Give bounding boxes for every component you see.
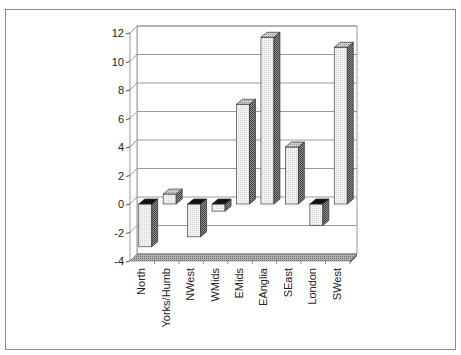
bar-seast [285, 142, 304, 204]
y-tick-label: 2 [118, 170, 124, 182]
x-axis: NorthYorks/HumbNWestWMidsEMidsEAngliaSEa… [135, 261, 350, 328]
x-category-label: North [135, 268, 147, 295]
x-category-label: London [306, 268, 318, 305]
y-tick-label: 4 [118, 141, 124, 153]
y-tick-label: 6 [118, 113, 124, 125]
bar-chart-3d: -4-2024681012 NorthYorks/HumbNWestWMidsE… [0, 0, 461, 355]
y-tick-label: 8 [118, 84, 124, 96]
bar-north [139, 199, 158, 247]
x-category-label: SWest [331, 268, 343, 300]
bar-emids [237, 99, 256, 204]
bar-eanglia [261, 32, 280, 204]
x-category-label: SEast [282, 268, 294, 297]
y-tick-label: 10 [112, 56, 124, 68]
y-axis: -4-2024681012 [112, 27, 130, 267]
y-tick-label: -2 [114, 227, 124, 239]
x-category-label: NWest [184, 268, 196, 301]
bar-nwest [188, 199, 207, 237]
x-category-label: Yorks/Humb [160, 268, 172, 328]
bar-swest [334, 42, 353, 204]
y-tick-label: 0 [118, 198, 124, 210]
y-tick-label: -4 [114, 255, 124, 267]
bar-yorks-humb [163, 189, 182, 204]
y-tick-label: 12 [112, 27, 124, 39]
bar-london [310, 199, 329, 225]
x-category-label: EMids [233, 268, 245, 299]
x-category-label: WMids [209, 268, 221, 302]
x-category-label: EAnglia [257, 267, 269, 306]
chart-floor [130, 254, 357, 263]
